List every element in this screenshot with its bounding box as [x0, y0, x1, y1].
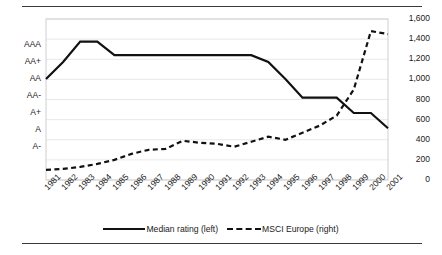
x-axis-tick-1981: 1981 — [42, 172, 62, 192]
x-axis-tick-1983: 1983 — [76, 172, 96, 192]
x-axis-tick-1986: 1986 — [128, 172, 148, 192]
legend-dashed-line-icon — [227, 228, 261, 230]
legend-label-msci-europe: MSCI Europe (right) — [262, 224, 338, 234]
legend-label-median-rating: Median rating (left) — [146, 224, 218, 234]
x-axis-tick-1999: 1999 — [350, 172, 370, 192]
x-axis-tick-2001: 2001 — [384, 172, 404, 192]
x-axis-tick-1991: 1991 — [213, 172, 233, 192]
x-axis-tick-1989: 1989 — [179, 172, 199, 192]
x-axis-tick-1996: 1996 — [299, 172, 319, 192]
x-axis-tick-1982: 1982 — [59, 172, 79, 192]
legend-solid-line-icon — [103, 228, 145, 230]
x-axis-tick-labels: 1981198219831984198519861987198819891990… — [0, 0, 442, 215]
x-axis-tick-1997: 1997 — [316, 172, 336, 192]
chart-figure: AAAAA+AAAA-A+AA- 1,6001,4001,2001,000800… — [0, 0, 442, 255]
chart-legend: Median rating (left) MSCI Europe (right) — [0, 219, 442, 239]
legend-item-median-rating: Median rating (left) — [103, 224, 218, 234]
x-axis-tick-1988: 1988 — [162, 172, 182, 192]
x-axis-tick-1990: 1990 — [196, 172, 216, 192]
x-axis-tick-2000: 2000 — [367, 172, 387, 192]
x-axis-tick-1984: 1984 — [93, 172, 113, 192]
x-axis-tick-1985: 1985 — [110, 172, 130, 192]
x-axis-tick-1995: 1995 — [281, 172, 301, 192]
x-axis-tick-1998: 1998 — [333, 172, 353, 192]
x-axis-tick-1993: 1993 — [247, 172, 267, 192]
x-axis-tick-1994: 1994 — [264, 172, 284, 192]
x-axis-tick-1987: 1987 — [145, 172, 165, 192]
x-axis-tick-1992: 1992 — [230, 172, 250, 192]
legend-item-msci-europe: MSCI Europe (right) — [224, 224, 338, 234]
